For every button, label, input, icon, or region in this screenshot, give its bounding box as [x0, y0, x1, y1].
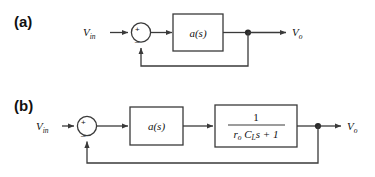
- panel-a-minus-sign: _: [134, 34, 140, 43]
- panel-b-plus-sign: +: [81, 118, 86, 127]
- panel-b-group: Vin + _ a(s) 1 ro CLs + 1: [36, 105, 358, 163]
- panel-b-pole-numerator: 1: [253, 111, 259, 123]
- panel-b-gain-block-label: a(s): [148, 120, 165, 133]
- diagram-canvas: Vin + _ a(s) Vo Vin: [0, 0, 375, 177]
- panel-a-gain-block-label: a(s): [189, 27, 206, 40]
- panel-b-minus-sign: _: [80, 128, 86, 137]
- panel-b-output-label: Vo: [347, 120, 358, 135]
- panel-b-input-label: Vin: [36, 120, 49, 135]
- block-diagram-figure: (a) (b) Vin + _ a(s): [0, 0, 375, 177]
- panel-a-input-label: Vin: [83, 26, 96, 41]
- panel-a-group: Vin + _ a(s) Vo: [83, 14, 303, 66]
- panel-a-output-label: Vo: [292, 26, 303, 41]
- panel-a-plus-sign: +: [135, 25, 140, 34]
